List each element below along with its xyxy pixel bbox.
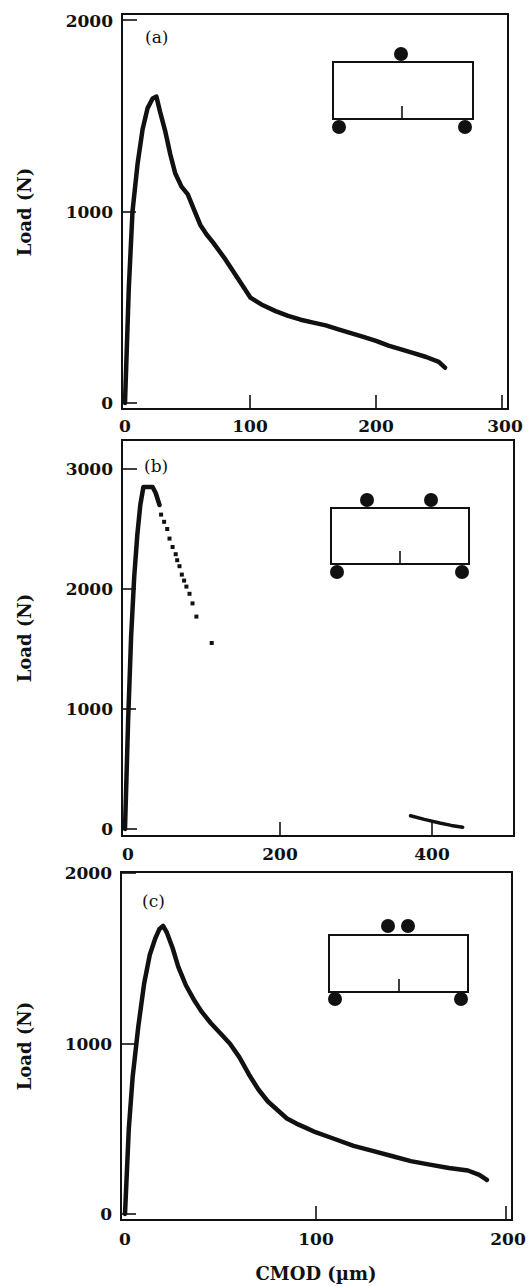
panel-c-xtick-0: 0 [119,1229,131,1249]
panel-c-ytick-1000: 1000 [65,1034,112,1054]
panel-a-xtick-300: 300 [487,416,523,436]
data-point [210,641,214,645]
data-point [162,520,166,524]
panel-a-ytick-0: 0 [101,393,113,413]
panel-c: 2000 1000 0 0 100 200 (c) Load (N) CMOD … [14,863,526,1284]
panel-b-ytick-3000: 3000 [66,459,113,479]
data-point [188,592,192,596]
panel-a-ylabel: Load (N) [14,168,35,257]
panel-b-xtick-0: 0 [122,844,134,864]
support-roller-icon [332,120,346,134]
data-point [168,537,172,541]
data-point [180,573,184,577]
panel-a-xtick-0: 0 [119,416,131,436]
panel-b-xticks [280,822,432,836]
data-point [184,585,188,589]
data-point [178,564,182,568]
panel-c-tag: (c) [142,891,165,911]
data-point [165,527,169,531]
load-roller-icon [401,919,415,933]
support-roller-icon [455,565,469,579]
data-point [159,513,163,517]
panel-b-ytick-2000: 2000 [66,579,113,599]
panel-c-ylabel: Load (N) [14,1002,35,1091]
panel-a: 2000 1000 0 0 100 200 300 (a) Load (N) [14,11,523,436]
panel-a-tag: (a) [145,27,168,47]
panel-b: 3000 2000 1000 0 0 200 400 (b) Load (N) [14,440,514,864]
data-point [174,552,178,556]
panel-c-inset-beam [328,919,468,1006]
panel-c-xticks [316,1206,506,1220]
load-roller-icon [381,919,395,933]
panel-b-xtick-400: 400 [414,844,450,864]
load-roller-icon [394,47,408,61]
panel-a-xticks [250,395,502,409]
panel-a-ytick-2000: 2000 [66,11,113,31]
support-roller-icon [328,992,342,1006]
panel-b-frame [122,440,514,836]
panel-a-ytick-1000: 1000 [66,202,113,222]
panel-a-inset-three-point-beam [332,47,473,134]
panel-b-xtick-200: 200 [262,844,298,864]
data-point [175,558,179,562]
panel-c-ytick-2000: 2000 [65,863,112,883]
panel-c-ytick-0: 0 [100,1204,112,1224]
panel-a-curve [125,97,445,403]
support-roller-icon [458,120,472,134]
panel-a-xtick-200: 200 [358,416,394,436]
panel-b-inset-four-point-beam [330,493,469,579]
panel-b-ylabel: Load (N) [14,594,35,683]
support-roller-icon [454,992,468,1006]
data-point [171,545,175,549]
panel-a-xtick-100: 100 [232,416,268,436]
data-point [182,579,186,583]
data-point [191,601,195,605]
x-axis-title: CMOD (µm) [255,1263,376,1284]
panel-b-ytick-1000: 1000 [66,699,113,719]
load-roller-icon [424,493,438,507]
panel-b-curve-prepeak [125,487,160,829]
support-roller-icon [330,565,344,579]
panel-b-curve-tail [411,816,463,827]
figure: 2000 1000 0 0 100 200 300 (a) Load (N) [0,0,532,1286]
panel-b-ytick-0: 0 [101,819,113,839]
load-roller-icon [360,493,374,507]
panel-c-xtick-200: 200 [490,1229,526,1249]
panel-b-curve-postpeak-dots [159,513,214,645]
data-point [194,615,198,619]
panel-c-xtick-100: 100 [298,1229,334,1249]
panel-b-tag: (b) [144,456,168,476]
